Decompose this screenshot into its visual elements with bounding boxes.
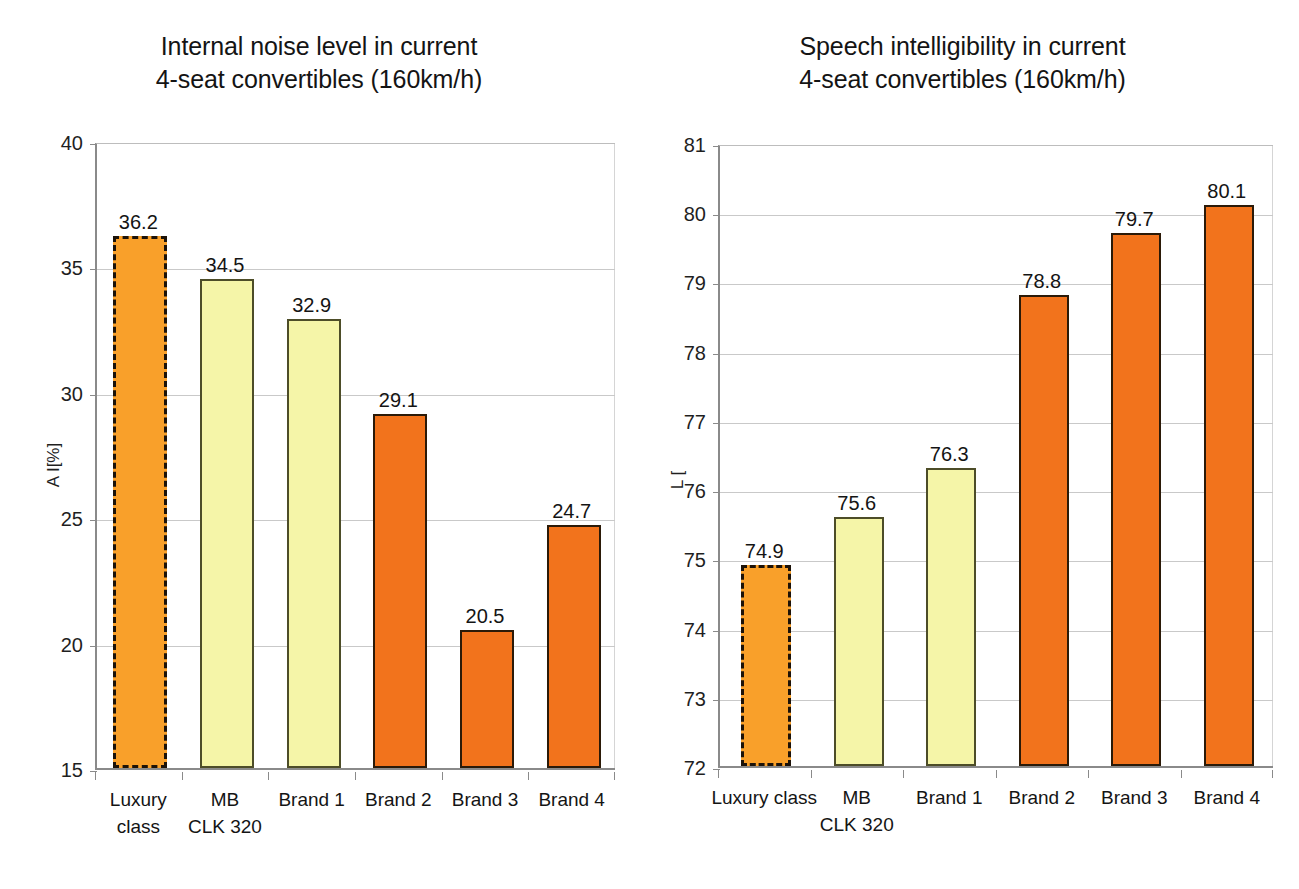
bar-value-label: 79.7 [1115, 209, 1154, 229]
bar-fill [1019, 295, 1069, 766]
x-axis-tick [903, 770, 904, 778]
bar[interactable] [926, 468, 976, 766]
x-axis-tick [718, 770, 719, 778]
bar[interactable] [460, 630, 514, 768]
y-axis-label: 81 [656, 135, 706, 155]
y-axis-tick [90, 520, 97, 521]
gridline [720, 631, 1273, 632]
plot-area-speech-intelligibility [718, 145, 1273, 768]
bar-fill [834, 517, 884, 766]
x-axis-tick [1181, 770, 1182, 778]
y-axis-label: 35 [33, 258, 83, 278]
bar-value-label: 34.5 [206, 255, 245, 275]
bar[interactable] [1111, 233, 1161, 766]
x-axis-tick [268, 772, 269, 780]
y-axis-label: 75 [656, 550, 706, 570]
y-axis-title-noise-level: A I[%] [44, 405, 64, 525]
x-axis-tick [95, 772, 96, 780]
bar-fill [1204, 205, 1254, 766]
gridline [720, 284, 1273, 285]
bar-value-label: 36.2 [119, 212, 158, 232]
bar-fill [373, 414, 427, 768]
y-axis-label: 77 [656, 412, 706, 432]
y-axis-label: 15 [33, 760, 83, 780]
y-axis-tick [713, 423, 720, 424]
gridline [720, 354, 1273, 355]
plot-right-edge [614, 144, 615, 768]
gridline [720, 215, 1273, 216]
bar-value-label: 74.9 [745, 541, 784, 561]
bar-value-label: 80.1 [1207, 181, 1246, 201]
gridline [720, 492, 1273, 493]
y-axis-tick [90, 395, 97, 396]
x-axis-noise-level: Luxury classMB CLK 320Brand 1Brand 2Bran… [95, 780, 615, 870]
bar-value-label: 24.7 [552, 501, 591, 521]
bar-fill [287, 319, 341, 768]
bar[interactable] [113, 236, 167, 768]
bar[interactable] [834, 517, 884, 766]
y-axis-label: 40 [33, 133, 83, 153]
x-axis-tick [996, 770, 997, 778]
y-axis-label: 80 [656, 204, 706, 224]
bar-fill [547, 525, 601, 768]
gridline [97, 646, 615, 647]
y-axis-tick [90, 646, 97, 647]
y-axis-tick [90, 269, 97, 270]
y-axis-tick [713, 492, 720, 493]
bar-fill [460, 630, 514, 768]
x-axis-tick [811, 770, 812, 778]
gridline [720, 423, 1273, 424]
bar[interactable] [373, 414, 427, 768]
chart-title-noise-level: Internal noise level in current 4-seat c… [0, 30, 644, 96]
bar-fill [926, 468, 976, 766]
y-axis-label: 74 [656, 620, 706, 640]
x-axis-tick [442, 772, 443, 780]
bar[interactable] [547, 525, 601, 768]
gridline [97, 269, 615, 270]
x-axis-ticks [95, 770, 615, 780]
y-axis-tick [713, 700, 720, 701]
y-axis-label: 72 [656, 758, 706, 778]
x-axis-label: Brand 4 [1161, 784, 1294, 811]
x-axis-tick [614, 772, 615, 780]
bar[interactable] [200, 279, 254, 768]
bar-value-label: 75.6 [837, 493, 876, 513]
y-axis-tick [713, 215, 720, 216]
x-axis-tick [355, 772, 356, 780]
bar-value-label: 78.8 [1022, 271, 1061, 291]
plot-area-noise-level [95, 143, 615, 770]
chart-panel-noise-level: Internal noise level in current 4-seat c… [0, 0, 650, 889]
y-axis-tick [90, 144, 97, 145]
y-axis-label: 73 [656, 689, 706, 709]
bar[interactable] [741, 565, 791, 766]
y-axis-label: 79 [656, 273, 706, 293]
x-axis-tick [182, 772, 183, 780]
bar[interactable] [287, 319, 341, 768]
y-axis-label: 30 [33, 384, 83, 404]
bar-value-label: 32.9 [292, 295, 331, 315]
plot-right-edge [1272, 146, 1273, 766]
x-axis-speech-intelligibility: Luxury classMB CLK 320Brand 1Brand 2Bran… [718, 778, 1273, 868]
bar-fill [113, 236, 167, 768]
bar-fill [1111, 233, 1161, 766]
bar-value-label: 20.5 [466, 606, 505, 626]
y-axis-label: 25 [33, 509, 83, 529]
x-axis-tick [1088, 770, 1089, 778]
y-axis-tick [713, 284, 720, 285]
bar-value-label: 29.1 [379, 390, 418, 410]
bar[interactable] [1204, 205, 1254, 766]
y-axis-tick [713, 354, 720, 355]
bar-fill [741, 565, 791, 766]
bar[interactable] [1019, 295, 1069, 766]
chart-title-speech-intelligibility: Speech intelligibility in current 4-seat… [638, 30, 1287, 96]
x-axis-label: Brand 4 [508, 786, 635, 813]
y-axis-label: 76 [656, 481, 706, 501]
gridline [97, 395, 615, 396]
x-axis-tick [528, 772, 529, 780]
bar-fill [200, 279, 254, 768]
x-axis-ticks [718, 768, 1273, 778]
y-axis-tick [713, 631, 720, 632]
figure-canvas: Internal noise level in current 4-seat c… [0, 0, 1299, 889]
y-axis-label: 78 [656, 343, 706, 363]
bar-value-label: 76.3 [930, 444, 969, 464]
